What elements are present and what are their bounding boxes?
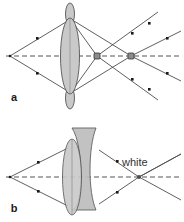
panel-b-source-point (9, 176, 12, 179)
diverging-ray-near-lower (97, 56, 158, 100)
optics-figure: a (0, 0, 184, 222)
diverging-ray-lower (139, 177, 181, 200)
ray-marker (148, 22, 151, 25)
ray-marker (148, 88, 151, 91)
panel-b-label: b (11, 202, 18, 214)
panel-a-source-point (9, 55, 12, 58)
ray-marker (166, 37, 169, 40)
panel-a-label: a (11, 91, 18, 103)
ray-marker (36, 72, 39, 75)
ray-marker (131, 32, 134, 35)
optics-diagram-svg: a (0, 0, 184, 222)
ray-marker (37, 190, 40, 193)
focus-marker-far (128, 53, 134, 59)
converging-ray-2 (74, 56, 131, 91)
ray-marker (36, 37, 39, 40)
panel-b: white b (6, 128, 181, 215)
panel-a: a (6, 3, 181, 109)
diverging-ray-far-lower (131, 56, 181, 81)
converging-ray-1 (74, 21, 131, 56)
ray-marker (116, 160, 119, 163)
ray-marker (166, 72, 169, 75)
converging-ray-lower (99, 177, 139, 204)
white-light-label: white (121, 156, 148, 168)
diverging-ray-far-upper (131, 31, 181, 56)
focus-marker-near (94, 53, 100, 59)
diverging-ray-near-upper (97, 12, 158, 56)
ray-marker (131, 78, 134, 81)
ray-marker (37, 161, 40, 164)
panel-b-common-focus-marker (137, 175, 141, 179)
ray-marker (116, 191, 119, 194)
